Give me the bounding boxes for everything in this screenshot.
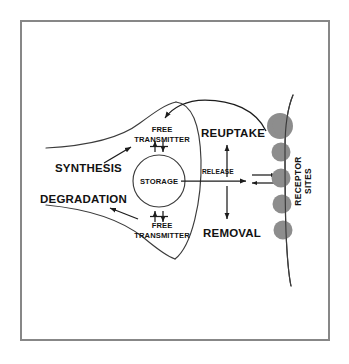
figure-root: SYNTHESIS DEGRADATION FREE TRANSMITTER S… xyxy=(0,0,349,364)
label-release: RELEASE xyxy=(202,168,234,175)
label-removal: REMOVAL xyxy=(203,227,261,239)
receptor-lobe xyxy=(272,169,291,188)
receptor-lobe xyxy=(272,143,291,162)
receptor-lobe xyxy=(274,221,293,240)
label-synthesis: SYNTHESIS xyxy=(55,162,122,174)
postsynaptic-membrane xyxy=(267,95,293,286)
label-free-transmitter-top-line1: FREE xyxy=(152,125,173,134)
label-free-transmitter-bottom-line2: TRANSMITTER xyxy=(134,231,190,240)
label-storage: STORAGE xyxy=(140,177,178,186)
label-receptor-sites-line1: RECEPTOR xyxy=(293,156,303,206)
label-receptor-sites: RECEPTOR SITES xyxy=(293,156,313,206)
label-free-transmitter-bottom-line1: FREE xyxy=(152,221,173,230)
receptor-lobe xyxy=(273,117,292,136)
degradation-arrow xyxy=(110,208,138,219)
label-degradation: DEGRADATION xyxy=(40,193,127,205)
synthesis-arrow xyxy=(104,147,131,163)
label-reuptake: REUPTAKE xyxy=(201,127,265,139)
synapse-diagram: SYNTHESIS DEGRADATION FREE TRANSMITTER S… xyxy=(0,0,349,364)
label-receptor-sites-line2: SITES xyxy=(303,168,313,194)
receptor-lobe xyxy=(273,195,292,214)
label-free-transmitter-top-line2: TRANSMITTER xyxy=(134,135,190,144)
